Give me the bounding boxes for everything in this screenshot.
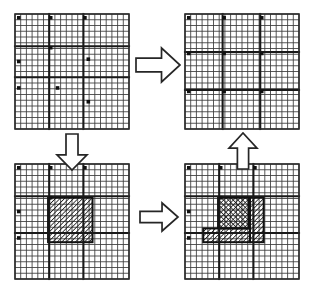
node-marker bbox=[83, 166, 87, 170]
panel-regularized-block-mesh bbox=[185, 14, 299, 129]
node-marker bbox=[187, 90, 191, 94]
node-marker bbox=[17, 210, 21, 214]
node-marker bbox=[187, 52, 191, 56]
node-marker bbox=[87, 100, 91, 104]
panel-flagged-refinement-region bbox=[15, 164, 129, 279]
hatch-flagged-block bbox=[48, 197, 92, 242]
node-marker bbox=[260, 90, 264, 94]
fine-grid-lines bbox=[15, 14, 129, 129]
hatch-crosshatch-block bbox=[218, 197, 249, 228]
node-marker bbox=[253, 166, 257, 170]
node-marker bbox=[260, 52, 264, 56]
node-marker bbox=[222, 52, 226, 56]
hatch-diagonal-strip-right bbox=[250, 197, 264, 242]
hatched-regions bbox=[48, 197, 92, 242]
node-marker bbox=[49, 166, 53, 170]
node-marker bbox=[222, 90, 226, 94]
node-marker bbox=[222, 16, 226, 20]
node-marker bbox=[187, 16, 191, 20]
node-marker bbox=[17, 236, 21, 240]
panel-partitioned-refinement-blocks bbox=[185, 164, 299, 279]
mesh-refinement-figure bbox=[0, 0, 315, 295]
node-marker bbox=[83, 16, 87, 20]
node-marker bbox=[17, 86, 21, 90]
node-marker bbox=[260, 16, 264, 20]
node-marker bbox=[56, 86, 60, 90]
node-marker bbox=[17, 16, 21, 20]
figure-background bbox=[0, 0, 315, 295]
node-marker bbox=[49, 196, 53, 200]
node-marker bbox=[49, 16, 53, 20]
node-marker bbox=[87, 57, 91, 61]
panel-initial-irregular-mesh bbox=[15, 14, 129, 129]
node-marker bbox=[187, 210, 191, 214]
fine-grid-lines bbox=[185, 14, 299, 129]
node-marker bbox=[187, 166, 191, 170]
hatch-diagonal-block-lower bbox=[203, 228, 250, 242]
node-marker bbox=[49, 46, 53, 50]
node-marker bbox=[17, 166, 21, 170]
node-marker bbox=[187, 236, 191, 240]
node-marker bbox=[219, 166, 223, 170]
node-marker bbox=[219, 196, 223, 200]
figure-canvas bbox=[0, 0, 315, 295]
node-marker bbox=[17, 60, 21, 64]
